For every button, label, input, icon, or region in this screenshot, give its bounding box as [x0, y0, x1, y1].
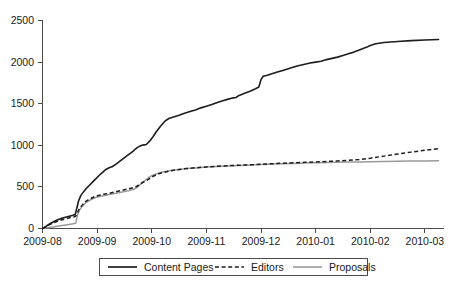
y-tick-label-0: 0	[28, 222, 34, 234]
x-tick-label-2009-11: 2009-11	[187, 235, 225, 247]
x-tick-label-2009-12: 2009-12	[242, 235, 281, 247]
y-tick-label-2000: 2000	[11, 56, 35, 68]
chart-container: 2500 2000 1500 1000 500 0 2009-082009-09…	[0, 0, 451, 289]
y-tick-label-2500: 2500	[11, 14, 35, 26]
y-tick-label-500: 500	[16, 180, 34, 192]
x-tick-label-2009-10: 2009-10	[132, 235, 171, 247]
x-tick-label-2010-03: 2010-03	[406, 235, 445, 247]
y-tick-label-1000: 1000	[11, 139, 35, 151]
y-tick-label-1500: 1500	[11, 97, 35, 109]
legend-label-editors: Editors	[251, 261, 284, 273]
x-tick-label-2009-08: 2009-08	[23, 235, 62, 247]
legend-label-content-pages: Content Pages	[144, 261, 213, 273]
legend-label-proposals: Proposals	[329, 261, 376, 273]
x-tick-label-2010-02: 2010-02	[351, 235, 390, 247]
x-tick-label-2009-09: 2009-09	[78, 235, 117, 247]
line-chart: 2500 2000 1500 1000 500 0 2009-082009-09…	[0, 0, 451, 289]
x-tick-label-2010-01: 2010-01	[296, 235, 335, 247]
